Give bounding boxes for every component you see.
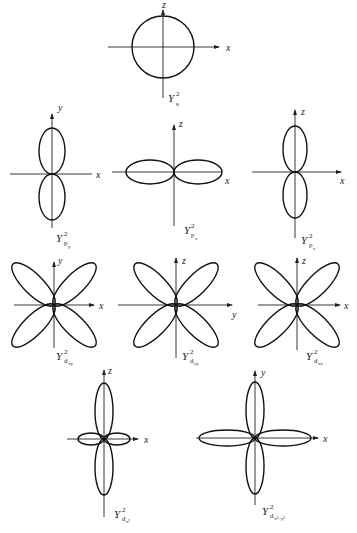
svg-text:s: s [176, 100, 179, 108]
diagram-dx2y2: x y Y 2 d x²−y² [196, 367, 328, 521]
orbital-diagram-figure: x z Y 2 s x y Y 2 p y x z Y 2 p [0, 0, 357, 533]
diagram-s: x z Y 2 s [108, 0, 231, 108]
orbital-label: Y 2 p x [184, 222, 198, 241]
svg-text:xz: xz [318, 361, 324, 366]
svg-text:2: 2 [122, 506, 126, 514]
svg-text:2: 2 [176, 90, 180, 98]
axis-h-label: x [322, 433, 328, 444]
svg-text:z²: z² [126, 519, 130, 524]
axis-h-label: x [143, 434, 149, 445]
orbital-label: Y 2 p z [301, 232, 316, 251]
axis-v-label: y [260, 367, 266, 378]
axis-h-label: x [95, 169, 101, 180]
orbital-label: Y 2 s [168, 90, 180, 108]
svg-text:2: 2 [270, 503, 274, 511]
svg-text:Y: Y [182, 350, 190, 362]
svg-text:2: 2 [190, 348, 194, 356]
diagram-pz: x z Y 2 p z [252, 106, 345, 251]
svg-text:y: y [68, 244, 71, 249]
axis-h-label: x [98, 300, 104, 311]
diagram-dxy: x y Y 2 d xy [6, 255, 104, 366]
axis-v-label: z [301, 255, 306, 266]
svg-text:z: z [313, 246, 316, 251]
svg-text:2: 2 [64, 230, 68, 238]
orbital-label: Y 2 d x²−y² [262, 503, 285, 521]
svg-text:x²−y²: x²−y² [274, 516, 285, 521]
axis-h-label: x [339, 175, 345, 186]
svg-text:Y: Y [56, 350, 64, 362]
axis-h-label: y [231, 309, 237, 320]
svg-text:2: 2 [314, 348, 318, 356]
axis-v-label: z [178, 118, 183, 129]
svg-text:xy: xy [68, 361, 74, 366]
svg-text:Y: Y [114, 508, 122, 520]
diagram-px: x z Y 2 p x [112, 118, 230, 241]
axis-h-label: x [343, 300, 349, 311]
svg-text:Y: Y [262, 505, 270, 517]
axis-v-label: y [57, 255, 63, 266]
svg-text:2: 2 [309, 232, 313, 240]
svg-text:2: 2 [64, 348, 68, 356]
diagram-dzy: y z Y 2 d zy [118, 255, 237, 366]
axis-v-label: y [57, 102, 63, 113]
orbital-label: Y 2 d z² [114, 506, 130, 524]
axis-v-label: z [107, 365, 112, 376]
orbital-label: Y 2 d xy [56, 348, 74, 366]
orbital-label: Y 2 d xz [306, 348, 324, 366]
axis-h-label: x [225, 42, 231, 53]
svg-text:Y: Y [56, 232, 64, 244]
svg-text:Y: Y [168, 92, 176, 104]
svg-text:zy: zy [194, 361, 199, 366]
svg-text:x: x [195, 236, 198, 241]
axis-v-label: z [181, 255, 186, 266]
orbital-label: Y 2 d zy [182, 348, 199, 366]
axis-v-label: z [300, 106, 305, 117]
orbital-label: Y 2 p y [56, 230, 71, 249]
svg-text:Y: Y [306, 350, 314, 362]
axis-v-label: z [161, 0, 166, 10]
axis-h-label: x [224, 175, 230, 186]
diagram-dz2: x z Y 2 d z² [67, 365, 149, 524]
diagram-py: x y Y 2 p y [10, 102, 101, 249]
svg-text:Y: Y [301, 234, 309, 246]
svg-text:2: 2 [191, 222, 195, 230]
diagram-dxz: x z Y 2 d xz [249, 255, 349, 366]
